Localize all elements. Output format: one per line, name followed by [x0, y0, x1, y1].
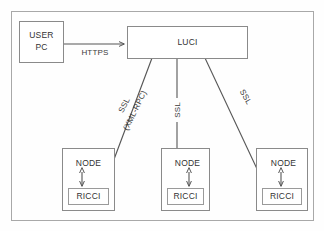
ssl-2-label: SSL	[173, 102, 182, 118]
edge-label-https: HTTPS	[78, 46, 112, 59]
architecture-diagram: USER PC LUCI NODE RICCI NODE RICCI NOD	[0, 0, 324, 231]
node-1[interactable]: NODE RICCI	[63, 149, 115, 211]
node-luci[interactable]: LUCI	[128, 27, 248, 59]
ricci-3-label: RICCI	[270, 191, 294, 201]
user-pc-label-line2: PC	[35, 42, 47, 52]
ssl-3-label: SSL	[238, 88, 254, 106]
node-1-label: NODE	[76, 158, 101, 168]
node-3[interactable]: NODE RICCI	[257, 149, 308, 211]
edge-label-ssl-1: SSL (XML-RPC)	[111, 84, 149, 132]
edge-label-ssl-2: SSL	[172, 98, 184, 122]
luci-label: LUCI	[177, 37, 197, 47]
node-2[interactable]: NODE RICCI	[162, 149, 210, 211]
diagram-root: USER PC LUCI NODE RICCI NODE RICCI NOD	[0, 0, 324, 231]
edge-label-ssl-3: SSL	[238, 88, 254, 106]
user-pc-label-line1: USER	[29, 30, 53, 40]
ricci-1-label: RICCI	[76, 191, 100, 201]
node-user-pc[interactable]: USER PC	[20, 22, 64, 63]
node-3-label: NODE	[271, 158, 296, 168]
ricci-2-label: RICCI	[173, 191, 197, 201]
https-label: HTTPS	[81, 48, 108, 57]
node-2-label: NODE	[175, 158, 200, 168]
